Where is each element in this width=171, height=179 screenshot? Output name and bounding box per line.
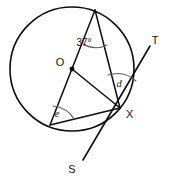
label-point-t: T: [152, 34, 159, 46]
center-point-dot: [70, 67, 75, 72]
label-point-x: X: [126, 108, 134, 120]
circle-tangent-figure: O X T S 37° d e: [0, 0, 171, 179]
label-angle-e: e: [55, 108, 60, 119]
label-angle-d: d: [116, 78, 122, 89]
label-point-s: S: [68, 163, 75, 175]
label-angle-37-degrees: 37°: [76, 37, 91, 48]
radius-o-to-x: [72, 69, 120, 108]
label-center-o: O: [56, 56, 65, 68]
chord-lower-left-to-x: [50, 108, 120, 125]
tangent-line-st: [83, 46, 150, 160]
geometry-diagram: O X T S 37° d e: [0, 0, 171, 179]
